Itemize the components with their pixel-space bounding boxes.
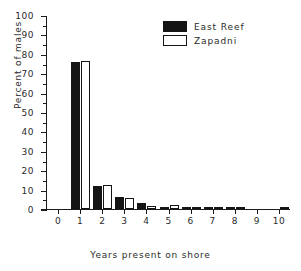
y-tick-label: 10 bbox=[22, 186, 34, 196]
y-tick-label: 50 bbox=[22, 108, 34, 118]
y-tick-label-wrap: 100 bbox=[40, 16, 41, 17]
x-tick-major bbox=[58, 210, 59, 214]
x-tick-label: 5 bbox=[165, 216, 171, 226]
y-tick-minor bbox=[43, 26, 47, 27]
x-tick-label: 1 bbox=[77, 216, 83, 226]
x-tick-major bbox=[169, 210, 170, 214]
bar bbox=[93, 186, 102, 209]
x-tick-label: 10 bbox=[273, 216, 285, 226]
x-tick-major bbox=[257, 210, 258, 214]
bar bbox=[182, 207, 191, 209]
chart-legend: East ReefZapadni bbox=[163, 20, 244, 48]
y-tick-label: 80 bbox=[22, 50, 34, 60]
y-tick-major bbox=[41, 94, 47, 95]
y-tick-minor bbox=[43, 181, 47, 182]
y-tick-minor bbox=[43, 103, 47, 104]
y-tick-minor bbox=[43, 162, 47, 163]
x-tick-major bbox=[124, 210, 125, 214]
y-tick-label-wrap: 50 bbox=[40, 113, 41, 114]
y-tick-label-wrap: 70 bbox=[40, 74, 41, 75]
y-tick-minor bbox=[43, 84, 47, 85]
bar bbox=[280, 207, 289, 209]
y-tick-minor bbox=[43, 45, 47, 46]
x-tick-label: 3 bbox=[121, 216, 127, 226]
bar bbox=[137, 203, 146, 209]
y-tick-major bbox=[41, 171, 47, 172]
y-tick-label: 100 bbox=[15, 11, 34, 21]
bar bbox=[236, 207, 245, 209]
x-axis-line bbox=[41, 209, 290, 210]
y-tick-label: 60 bbox=[22, 89, 34, 99]
y-tick-label-wrap: 40 bbox=[40, 132, 41, 133]
y-tick-minor bbox=[43, 200, 47, 201]
x-tick-major bbox=[102, 210, 103, 214]
x-tick-label: 9 bbox=[254, 216, 260, 226]
y-tick-label: 0 bbox=[28, 205, 34, 215]
y-tick-major bbox=[41, 152, 47, 153]
y-tick-label-wrap: 20 bbox=[40, 171, 41, 172]
x-axis-label: Years present on shore bbox=[0, 250, 301, 260]
y-tick-label: 30 bbox=[22, 147, 34, 157]
y-tick-major bbox=[41, 16, 47, 17]
legend-label: East Reef bbox=[194, 22, 244, 32]
y-tick-label-wrap: 90 bbox=[40, 35, 41, 36]
bar bbox=[170, 205, 179, 209]
bar bbox=[160, 207, 169, 209]
legend-swatch-zapadni bbox=[163, 35, 187, 46]
y-tick-label-wrap: 0 bbox=[40, 210, 41, 211]
x-tick-major bbox=[191, 210, 192, 214]
x-tick-major bbox=[146, 210, 147, 214]
x-tick-major bbox=[279, 210, 280, 214]
y-tick-label-wrap: 30 bbox=[40, 152, 41, 153]
y-tick-major bbox=[41, 35, 47, 36]
bar bbox=[204, 207, 213, 209]
x-tick-label: 0 bbox=[55, 216, 61, 226]
y-tick-label-wrap: 10 bbox=[40, 191, 41, 192]
y-tick-major bbox=[41, 132, 47, 133]
legend-label: Zapadni bbox=[194, 36, 237, 46]
y-tick-minor bbox=[43, 123, 47, 124]
bar bbox=[125, 198, 134, 209]
y-tick-major bbox=[41, 55, 47, 56]
x-tick-label: 6 bbox=[188, 216, 194, 226]
x-tick-major bbox=[213, 210, 214, 214]
x-tick-label: 7 bbox=[210, 216, 216, 226]
y-tick-major bbox=[41, 113, 47, 114]
x-tick-label: 8 bbox=[232, 216, 238, 226]
bar bbox=[103, 185, 112, 209]
bar bbox=[115, 197, 124, 209]
bar bbox=[214, 207, 223, 209]
y-tick-major bbox=[41, 191, 47, 192]
x-tick-major bbox=[80, 210, 81, 214]
bar bbox=[71, 62, 80, 209]
bar bbox=[226, 207, 235, 209]
bar bbox=[147, 206, 156, 209]
legend-item: East Reef bbox=[163, 20, 244, 33]
y-tick-label-wrap: 80 bbox=[40, 55, 41, 56]
bar bbox=[81, 61, 90, 209]
y-tick-major bbox=[41, 210, 47, 211]
legend-item: Zapadni bbox=[163, 34, 244, 47]
x-tick-label: 2 bbox=[99, 216, 105, 226]
bar bbox=[192, 207, 201, 209]
x-tick-major bbox=[235, 210, 236, 214]
bar-chart: Percent of males 0102030405060708090100 … bbox=[0, 0, 301, 271]
y-tick-minor bbox=[43, 142, 47, 143]
y-tick-label: 40 bbox=[22, 127, 34, 137]
y-tick-label: 20 bbox=[22, 166, 34, 176]
y-tick-label: 90 bbox=[22, 30, 34, 40]
y-tick-minor bbox=[43, 65, 47, 66]
x-tick-label: 4 bbox=[143, 216, 149, 226]
y-tick-label-wrap: 60 bbox=[40, 94, 41, 95]
y-tick-label: 70 bbox=[22, 69, 34, 79]
y-tick-major bbox=[41, 74, 47, 75]
legend-swatch-east-reef bbox=[163, 21, 187, 32]
